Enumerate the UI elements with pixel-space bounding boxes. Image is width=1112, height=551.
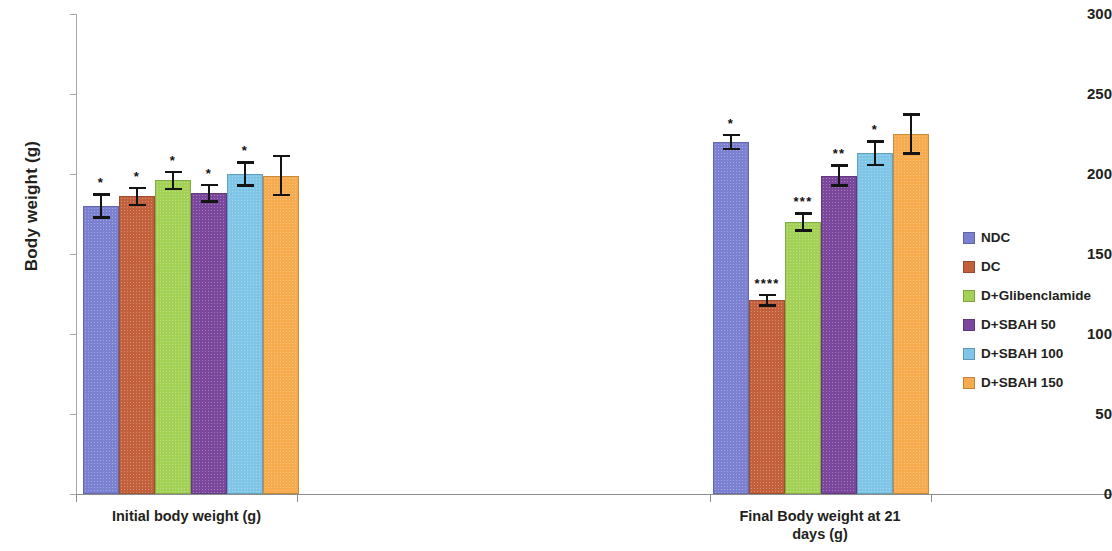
error-bar-cap-top (723, 134, 740, 136)
y-axis-tick-label: 250 (1054, 86, 1112, 101)
legend-label: DC (981, 259, 1001, 274)
bar (785, 222, 821, 494)
y-axis-tick-label: 300 (1054, 6, 1112, 21)
error-bar-cap-bottom (273, 194, 290, 196)
y-axis-tick (70, 174, 77, 175)
error-bar-cap-bottom (93, 216, 110, 218)
x-axis-tick (931, 494, 932, 502)
error-bar-stem (100, 193, 102, 219)
bar (119, 196, 155, 494)
error-bar-stem (244, 161, 246, 187)
y-axis-tick (70, 334, 77, 335)
x-axis-group-label-line: Final Body weight at 21 (690, 508, 950, 526)
x-axis-tick (710, 494, 711, 502)
error-bar-cap-top (903, 113, 920, 115)
error-bar-cap-bottom (165, 188, 182, 190)
error-bar-cap-top (759, 294, 776, 296)
legend-item[interactable]: D+SBAH 150 (963, 368, 1112, 397)
error-bar-cap-bottom (867, 164, 884, 166)
y-axis-tick-label: 0 (1054, 486, 1112, 501)
x-axis-tick (297, 494, 298, 502)
error-bar (263, 155, 299, 197)
error-bar (227, 161, 263, 187)
legend-label: D+SBAH 50 (981, 317, 1056, 332)
x-axis-group-label-line: days (g) (690, 526, 950, 544)
bar-chart-figure: Body weight (g) 050100150200250300 *****… (0, 0, 1112, 551)
legend-item[interactable]: D+Glibenclamide (963, 281, 1112, 310)
bar (263, 176, 299, 494)
error-bar-cap-bottom (237, 184, 254, 186)
x-axis-group-label: Final Body weight at 21days (g) (690, 508, 950, 543)
y-axis-tick (70, 254, 77, 255)
legend-swatch-icon (963, 348, 975, 360)
legend-item[interactable]: NDC (963, 223, 1112, 252)
significance-marker: * (701, 117, 761, 130)
error-bar-stem (280, 155, 282, 197)
error-bar-cap-top (867, 140, 884, 142)
error-bar-cap-bottom (831, 184, 848, 186)
significance-marker: * (143, 154, 203, 167)
legend-item[interactable]: D+SBAH 100 (963, 339, 1112, 368)
error-bar-cap-bottom (201, 200, 218, 202)
x-axis-line (76, 494, 1112, 495)
error-bar-cap-top (795, 212, 812, 214)
error-bar (785, 212, 821, 231)
error-bar-cap-bottom (795, 229, 812, 231)
legend-swatch-icon (963, 290, 975, 302)
legend-swatch-icon (963, 319, 975, 331)
error-bar (119, 187, 155, 206)
bar (227, 174, 263, 494)
error-bar-stem (874, 140, 876, 166)
error-bar-cap-top (237, 161, 254, 163)
legend-label: NDC (981, 230, 1010, 245)
error-bar (893, 113, 929, 155)
error-bar-cap-top (831, 164, 848, 166)
legend-label: D+Glibenclamide (981, 288, 1091, 303)
error-bar (749, 294, 785, 307)
legend-label: D+SBAH 100 (981, 346, 1063, 361)
y-axis-tick-label: 50 (1054, 406, 1112, 421)
legend-swatch-icon (963, 261, 975, 273)
error-bar (713, 134, 749, 150)
bar (713, 142, 749, 494)
y-axis-tick (70, 414, 77, 415)
bar (155, 180, 191, 494)
legend-item[interactable]: D+SBAH 50 (963, 310, 1112, 339)
bar (749, 300, 785, 494)
y-axis-tick (70, 94, 77, 95)
error-bar-stem (910, 113, 912, 155)
y-axis-title: Body weight (g) (22, 86, 42, 326)
x-axis-tick (76, 494, 77, 502)
legend-item[interactable]: DC (963, 252, 1112, 281)
error-bar-cap-top (201, 184, 218, 186)
x-axis-group-label: Initial body weight (g) (76, 508, 297, 526)
bar (191, 193, 227, 494)
error-bar-cap-bottom (759, 304, 776, 306)
legend-label: D+SBAH 150 (981, 375, 1063, 390)
bar (893, 134, 929, 494)
error-bar-cap-bottom (723, 148, 740, 150)
x-axis-group-label-line: Initial body weight (g) (76, 508, 297, 526)
y-axis-tick-label: 200 (1054, 166, 1112, 181)
error-bar (821, 164, 857, 186)
error-bar (83, 193, 119, 219)
error-bar-cap-top (273, 155, 290, 157)
error-bar-cap-bottom (903, 152, 920, 154)
chart-legend: NDCDCD+GlibenclamideD+SBAH 50D+SBAH 100D… (963, 223, 1112, 397)
error-bar-cap-bottom (129, 204, 146, 206)
bar (83, 206, 119, 494)
y-axis-tick (70, 14, 77, 15)
bar (821, 176, 857, 494)
error-bar (857, 140, 893, 166)
error-bar-cap-top (93, 193, 110, 195)
legend-swatch-icon (963, 232, 975, 244)
error-bar (191, 184, 227, 203)
legend-swatch-icon (963, 377, 975, 389)
error-bar-cap-top (129, 187, 146, 189)
bar (857, 153, 893, 494)
